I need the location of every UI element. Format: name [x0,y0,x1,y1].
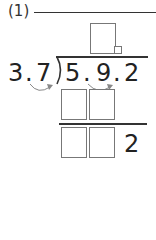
divisor-shift-arrow [30,84,50,90]
product-box-2[interactable] [89,89,115,120]
subtraction-bar [59,123,147,125]
remainder-box-2[interactable] [89,127,115,158]
product-box-1[interactable] [61,89,87,120]
remainder-box-1[interactable] [61,127,87,158]
remainder-digit: 2 [124,132,139,156]
arrow-head-icon [47,84,53,90]
